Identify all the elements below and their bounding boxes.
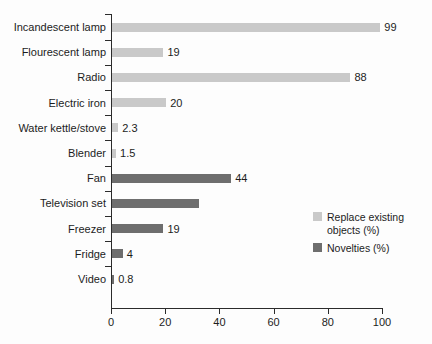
y-axis-tick [105,266,111,267]
y-axis-tick [105,166,111,167]
bar [112,48,163,57]
category-label: Radio [77,71,106,84]
legend-swatch-icon [313,212,322,221]
bar-value-label: 0.8 [118,273,133,286]
x-axis-tick-label: 100 [362,316,402,329]
bar-value-label: 99 [384,21,396,34]
y-axis-tick [105,40,111,41]
bar-value-label: 1.5 [120,147,135,160]
y-axis-tick [105,65,111,66]
y-axis-tick [105,216,111,217]
bar-value-label: 19 [167,223,179,236]
chart-legend: Replace existing objects (%)Novelties (%… [313,211,429,261]
y-axis-tick [105,140,111,141]
bar [112,199,199,208]
x-axis-tick [165,308,166,314]
x-axis-line [111,308,383,309]
bar [112,23,380,32]
y-axis-tick [105,191,111,192]
bar [112,73,350,82]
bar [112,123,118,132]
x-axis-tick [274,308,275,314]
x-axis-tick-label: 0 [91,316,131,329]
x-axis-tick [219,308,220,314]
x-axis-tick-label: 40 [199,316,239,329]
category-label: Incandescent lamp [14,21,106,34]
category-label: Freezer [68,223,106,236]
bar [112,224,163,233]
bar-chart: 020406080100 Incandescent lampFlourescen… [0,0,432,344]
category-label: Fridge [75,248,106,261]
category-label: Water kettle/stove [18,122,106,135]
bar [112,275,114,284]
x-axis-tick-label: 60 [254,316,294,329]
x-axis-tick [328,308,329,314]
bar [112,174,231,183]
legend-item: Novelties (%) [313,242,429,255]
category-label: Flourescent lamp [22,46,106,59]
bar-value-label: 44 [235,172,247,185]
category-label: Electric iron [49,97,106,110]
x-axis-tick-label: 80 [308,316,348,329]
legend-swatch-icon [313,243,322,252]
y-axis-tick [105,115,111,116]
x-axis-tick [382,308,383,314]
bar-value-label: 19 [167,46,179,59]
bar [112,149,116,158]
category-label: Fan [87,172,106,185]
x-axis-tick [111,308,112,314]
bar [112,249,123,258]
legend-label: Novelties (%) [327,242,389,255]
bar-value-label: 20 [170,97,182,110]
y-axis-tick [105,241,111,242]
x-axis-tick-label: 20 [145,316,185,329]
bar [112,98,166,107]
bar-value-label: 4 [127,248,133,261]
y-axis-tick [105,90,111,91]
legend-item: Replace existing objects (%) [313,211,429,236]
y-axis-tick [105,14,111,15]
y-axis-line [111,14,112,308]
legend-label: Replace existing objects (%) [327,211,429,236]
bar-value-label: 2.3 [122,122,137,135]
bar-value-label: 88 [354,71,366,84]
category-label: Video [78,273,106,286]
category-label: Television set [40,197,106,210]
category-label: Blender [68,147,106,160]
